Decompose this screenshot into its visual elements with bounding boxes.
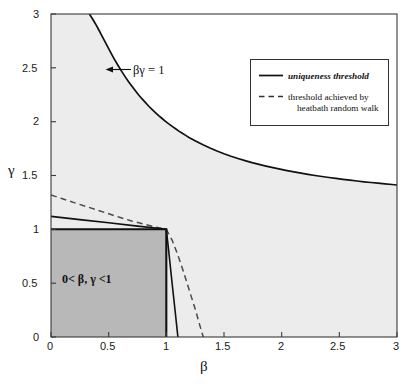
x-tick-label-2: 2: [278, 340, 284, 352]
chart-figure: [0, 0, 414, 384]
y-tick-label-1.5: 1.5: [22, 169, 37, 181]
x-tick-label-2.5: 2.5: [330, 340, 345, 352]
y-tick-label-0.5: 0.5: [22, 277, 37, 289]
y-tick-label-2.5: 2.5: [22, 62, 37, 74]
hyperbola-equation-label: βγ = 1: [133, 63, 164, 78]
y-tick-label-1: 1: [33, 223, 39, 235]
legend-label-heatbath: threshold achieved by heatbath random wa…: [288, 92, 379, 113]
legend-label-heatbath-line1: threshold achieved by: [288, 92, 369, 102]
legend-label-heatbath-line2: heatbath random walk: [297, 103, 379, 114]
x-tick-label-1.5: 1.5: [215, 340, 230, 352]
unit-square-region-label: 0< β, γ <1: [62, 272, 112, 287]
x-axis-title: β: [200, 358, 208, 375]
y-tick-label-0: 0: [33, 331, 39, 343]
x-tick-label-1: 1: [163, 340, 169, 352]
y-axis-title: γ: [8, 162, 15, 179]
x-tick-label-0: 0: [47, 340, 53, 352]
x-tick-label-0.5: 0.5: [100, 340, 115, 352]
y-tick-label-2: 2: [33, 115, 39, 127]
y-tick-label-3: 3: [33, 8, 39, 20]
x-tick-label-3: 3: [393, 340, 399, 352]
legend-label-uniqueness: uniqueness threshold: [288, 71, 369, 82]
